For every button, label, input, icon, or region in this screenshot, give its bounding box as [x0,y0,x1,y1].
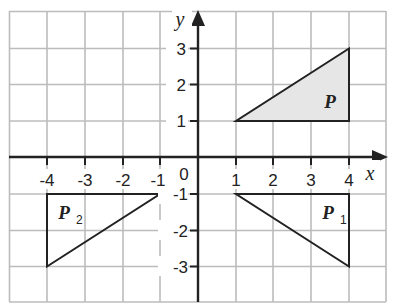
y-tick-label: -3 [173,258,188,277]
y-tick-label: -1 [173,185,188,204]
y-tick-label: 3 [177,40,186,59]
label-P1: P [321,202,334,223]
label-P: P [323,91,336,112]
origin-label: 0 [179,165,188,184]
label-P2: P [57,202,70,223]
axes [9,18,378,302]
label-P2-subscript: 2 [76,213,83,227]
x-tick-label: 4 [344,171,353,190]
y-tick-label: 2 [177,76,186,95]
label-P1-subscript: 1 [340,213,347,227]
x-tick-label: -1 [150,171,165,190]
y-tick-label: -2 [173,222,188,241]
y-axis-arrow-icon [191,10,205,26]
x-axis-label: x [365,162,375,184]
y-tick-label: 1 [177,112,186,131]
coordinate-grid-diagram: -4 -3 -2 -1 1 2 3 4 0 3 2 1 -1 -2 -3 y x… [0,0,394,307]
x-tick-label: -3 [77,171,92,190]
x-tick-label: -2 [115,171,130,190]
y-axis-label: y [174,8,185,31]
x-tick-label: -4 [39,171,54,190]
x-tick-label: 2 [268,171,277,190]
x-tick-label: 1 [231,171,240,190]
x-tick-label: 3 [306,171,315,190]
